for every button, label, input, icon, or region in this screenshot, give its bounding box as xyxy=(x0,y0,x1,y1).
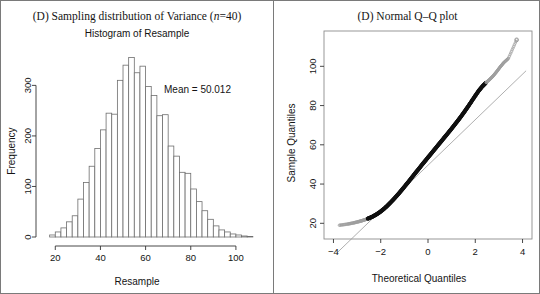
qq-xtick: 2 xyxy=(473,246,478,257)
qq-ytick: 40 xyxy=(307,179,318,190)
histogram-xtick: 20 xyxy=(50,252,61,263)
histogram-bar xyxy=(72,216,78,237)
qq-ytick: 80 xyxy=(307,100,318,111)
histogram-bar xyxy=(247,236,253,237)
histogram-bar xyxy=(112,114,118,237)
qq-ytick: 60 xyxy=(307,140,318,151)
histogram-bar xyxy=(225,232,231,237)
histogram-bar xyxy=(230,234,236,237)
histogram-bar xyxy=(84,182,90,237)
qq-xtick: −2 xyxy=(375,246,386,257)
histogram-bar xyxy=(67,222,73,237)
left-panel-histogram: (D) Sampling distribution of Variance (n… xyxy=(1,1,273,294)
histogram-bar xyxy=(106,113,112,237)
histogram-bar xyxy=(146,86,152,237)
histogram-bar xyxy=(61,228,67,237)
histogram-xtick: 80 xyxy=(185,252,196,263)
histogram-mean-annotation: Mean = 50.012 xyxy=(164,84,231,95)
qq-xtick: −4 xyxy=(328,246,339,257)
histogram-bar xyxy=(123,65,129,237)
histogram-bar xyxy=(50,235,56,237)
histogram-bar xyxy=(185,173,191,237)
histogram-ytick: 200 xyxy=(22,128,33,144)
qq-plot: 20406080100−4−2024 Theoretical Quantiles… xyxy=(274,1,540,294)
histogram-xtick: 60 xyxy=(140,252,151,263)
histogram-ytick: 0 xyxy=(22,234,33,239)
histogram-xtick: 100 xyxy=(228,252,244,263)
qq-axes: 20406080100−4−2024 xyxy=(307,58,526,257)
histogram-bar xyxy=(157,116,163,237)
histogram-bar xyxy=(242,236,248,237)
qq-ytick: 100 xyxy=(307,58,318,74)
histogram-bar xyxy=(55,232,61,237)
figure-container: (D) Sampling distribution of Variance (n… xyxy=(0,0,540,294)
histogram-xtick: 40 xyxy=(95,252,106,263)
right-panel-qqplot: (D) Normal Q–Q plot 20406080100−4−2024 T… xyxy=(274,1,540,294)
histogram-xlabel: Resample xyxy=(114,276,159,287)
qq-ylabel: Sample Quantiles xyxy=(286,104,297,183)
histogram-bar xyxy=(140,66,146,237)
histogram-ytick: 100 xyxy=(22,179,33,195)
histogram-bar xyxy=(117,80,123,237)
histogram-plot: 010020030020406080100 Mean = 50.012 Resa… xyxy=(1,1,273,294)
histogram-bar xyxy=(134,73,140,237)
histogram-bar xyxy=(163,115,169,237)
histogram-bar xyxy=(151,95,157,237)
histogram-bar xyxy=(100,130,106,237)
qq-xtick: 4 xyxy=(520,246,525,257)
histogram-bar xyxy=(202,211,208,237)
histogram-bar xyxy=(179,172,185,237)
qq-plot-frame xyxy=(324,31,532,239)
histogram-ytick: 300 xyxy=(22,77,33,93)
histogram-bar xyxy=(196,202,202,237)
histogram-bar xyxy=(168,146,174,237)
histogram-ylabel: Frequency xyxy=(6,127,17,174)
histogram-bar xyxy=(95,149,101,237)
histogram-bar xyxy=(213,226,219,237)
histogram-bar xyxy=(191,189,197,237)
histogram-bar xyxy=(78,199,84,237)
histogram-bar xyxy=(129,58,135,237)
qq-ytick: 20 xyxy=(307,218,318,229)
histogram-bar xyxy=(174,156,180,237)
histogram-bar xyxy=(89,166,95,237)
histogram-bar xyxy=(219,230,225,237)
qq-data-points xyxy=(338,38,518,227)
qq-xlabel: Theoretical Quantiles xyxy=(372,273,467,284)
qq-reference-line xyxy=(337,71,526,253)
histogram-bar xyxy=(208,219,214,237)
qq-xtick: 0 xyxy=(425,246,430,257)
histogram-bar xyxy=(236,235,242,237)
